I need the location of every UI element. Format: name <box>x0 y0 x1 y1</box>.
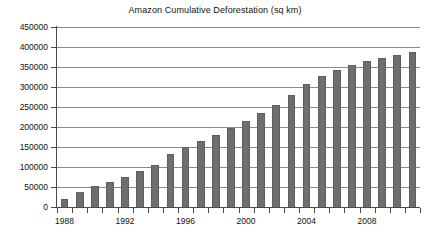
x-tick-mark-2003 <box>284 208 285 213</box>
x-tick-label-2004: 2004 <box>297 216 316 226</box>
x-tick-mark-1994 <box>148 208 149 213</box>
x-tick-mark-1992 <box>118 208 119 213</box>
x-tick-label-2000: 2000 <box>237 216 256 226</box>
bar-2004 <box>303 84 311 207</box>
chart-title: Amazon Cumulative Deforestation (sq km) <box>0 5 430 15</box>
bar-1994 <box>151 165 159 207</box>
bar-2011 <box>409 52 417 207</box>
x-tick-mark-1999 <box>223 208 224 213</box>
x-tick-mark-2008 <box>360 208 361 213</box>
y-tick-label-100000: 100000 <box>20 162 48 172</box>
x-tick-mark-2009 <box>375 208 376 213</box>
y-tick-label-450000: 450000 <box>20 22 48 32</box>
x-tick-mark-1996 <box>178 208 179 213</box>
bar-2000 <box>242 121 250 207</box>
bar-2003 <box>288 95 296 207</box>
x-tick-mark-end <box>420 208 421 213</box>
bars-layer <box>57 27 420 207</box>
bar-1989 <box>76 192 84 207</box>
x-tick-mark-1998 <box>208 208 209 213</box>
bar-2006 <box>333 70 341 207</box>
y-tick-label-400000: 400000 <box>20 42 48 52</box>
bar-1990 <box>91 186 99 207</box>
bar-2009 <box>378 58 386 207</box>
x-tick-mark-1991 <box>102 208 103 213</box>
x-axis-labels: 198819921996200020042008 <box>0 216 430 230</box>
x-tick-mark-2010 <box>390 208 391 213</box>
x-tick-mark-2000 <box>239 208 240 213</box>
y-tick-label-350000: 350000 <box>20 62 48 72</box>
x-tick-label-1988: 1988 <box>55 216 74 226</box>
x-tick-mark-1997 <box>193 208 194 213</box>
bar-1992 <box>121 177 129 207</box>
x-tick-mark-2007 <box>344 208 345 213</box>
bar-2010 <box>393 55 401 207</box>
bar-2001 <box>257 113 265 207</box>
x-tick-mark-1990 <box>87 208 88 213</box>
x-tick-mark-1993 <box>133 208 134 213</box>
x-tick-mark-2002 <box>269 208 270 213</box>
y-tick-label-250000: 250000 <box>20 102 48 112</box>
x-tick-mark-2001 <box>254 208 255 213</box>
bar-1995 <box>167 154 175 207</box>
bar-1996 <box>182 147 190 207</box>
x-tick-mark-1988 <box>57 208 58 213</box>
bar-1991 <box>106 182 114 207</box>
x-tick-mark-1989 <box>72 208 73 213</box>
x-tick-label-2008: 2008 <box>358 216 377 226</box>
y-tick-label-200000: 200000 <box>20 122 48 132</box>
bar-1997 <box>197 141 205 207</box>
bar-2005 <box>318 76 326 207</box>
bar-1993 <box>136 171 144 207</box>
y-tick-label-300000: 300000 <box>20 82 48 92</box>
bar-chart: Amazon Cumulative Deforestation (sq km) … <box>0 0 430 245</box>
x-axis-ticks <box>0 208 430 214</box>
y-tick-label-150000: 150000 <box>20 142 48 152</box>
x-tick-mark-1995 <box>163 208 164 213</box>
bar-2002 <box>272 105 280 207</box>
x-tick-mark-2004 <box>299 208 300 213</box>
plot-area <box>57 27 420 207</box>
x-tick-mark-2006 <box>329 208 330 213</box>
bar-2008 <box>363 61 371 207</box>
x-tick-mark-2005 <box>314 208 315 213</box>
x-tick-mark-2011 <box>405 208 406 213</box>
y-tick-label-50000: 50000 <box>24 182 48 192</box>
x-tick-label-1992: 1992 <box>116 216 135 226</box>
bar-1998 <box>212 135 220 207</box>
bar-1999 <box>227 128 235 207</box>
x-tick-label-1996: 1996 <box>176 216 195 226</box>
bar-1988 <box>61 199 69 207</box>
bar-2007 <box>348 65 356 207</box>
